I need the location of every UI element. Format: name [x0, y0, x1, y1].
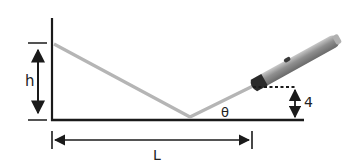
laser-pointer: [248, 31, 343, 93]
h-label: h: [25, 72, 35, 90]
laser-reflection-diagram: h 4 θ L: [0, 0, 363, 164]
pointer-height-label: 4: [304, 94, 313, 110]
angle-theta-label: θ: [221, 105, 229, 120]
l-label: L: [153, 147, 161, 163]
